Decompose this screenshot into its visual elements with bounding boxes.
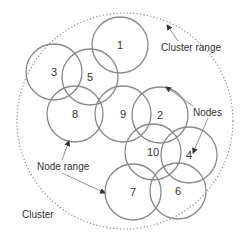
node-label: 1 <box>117 39 123 51</box>
cluster-range-label: Cluster range <box>161 42 221 53</box>
nodes-arrow-to-4 <box>193 118 208 153</box>
node-label: 5 <box>87 71 93 83</box>
node-label: 4 <box>186 149 192 161</box>
node-label: 7 <box>130 186 136 198</box>
cluster-range-arrow <box>167 25 178 41</box>
cluster-diagram: 1 2 3 4 5 6 7 8 9 10 Cluster range <box>0 0 250 241</box>
node-label: 3 <box>51 66 57 78</box>
node-3: 3 <box>26 44 82 100</box>
cluster-label: Cluster <box>22 209 54 220</box>
node-label: 9 <box>120 108 126 120</box>
node-1: 1 <box>92 17 148 73</box>
node-2: 2 <box>132 87 188 143</box>
node-6: 6 <box>150 163 206 219</box>
node-label: 8 <box>72 108 78 120</box>
nodes-arrow-to-2 <box>166 87 193 106</box>
nodes-label: Nodes <box>193 107 222 118</box>
node-range-arrow-to-8 <box>62 141 69 160</box>
node-label: 6 <box>175 185 181 197</box>
node-label: 2 <box>157 109 163 121</box>
node-range-arrow-to-7 <box>62 173 105 193</box>
node-5: 5 <box>62 49 118 105</box>
node-label: 10 <box>147 146 159 158</box>
node-range-label: Node range <box>37 161 90 172</box>
